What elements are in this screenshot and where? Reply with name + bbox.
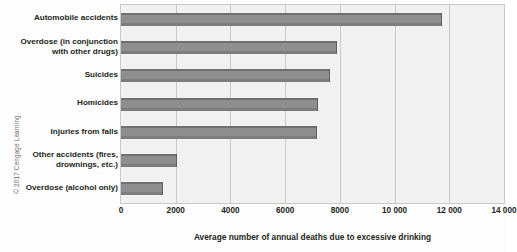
bar bbox=[121, 182, 163, 195]
category-label: Overdose (alcohol only) bbox=[10, 183, 118, 193]
category-axis-labels: Automobile accidentsOverdose (in conjunc… bbox=[10, 4, 118, 204]
x-axis-title: Average number of annual deaths due to e… bbox=[120, 232, 505, 242]
bar bbox=[121, 154, 177, 167]
gridline bbox=[504, 5, 505, 203]
x-tick-label: 10 000 bbox=[382, 206, 407, 215]
plot-inner bbox=[121, 5, 504, 203]
x-tick-label: 0 bbox=[119, 206, 124, 215]
bar bbox=[121, 69, 330, 82]
x-axis-tick-labels: 0200040006000800010 00012 00014 000 bbox=[120, 206, 505, 220]
gridline bbox=[449, 5, 450, 203]
x-tick-label: 12 000 bbox=[437, 206, 462, 215]
x-tick-label: 6000 bbox=[276, 206, 294, 215]
category-label: Overdose (in conjunction with other drug… bbox=[10, 37, 118, 58]
bar bbox=[121, 13, 442, 26]
category-label: Automobile accidents bbox=[10, 13, 118, 23]
category-label: Homicides bbox=[10, 98, 118, 108]
x-tick-label: 4000 bbox=[221, 206, 239, 215]
bar bbox=[121, 41, 337, 54]
gridline bbox=[395, 5, 396, 203]
x-tick-label: 8000 bbox=[331, 206, 349, 215]
bar bbox=[121, 126, 317, 139]
bar bbox=[121, 98, 318, 111]
plot-area bbox=[120, 4, 505, 204]
category-label: Other accidents (fires, drownings, etc.) bbox=[10, 150, 118, 171]
x-tick-label: 2000 bbox=[167, 206, 185, 215]
gridline bbox=[340, 5, 341, 203]
category-label: Suicides bbox=[10, 70, 118, 80]
x-tick-label: 14 000 bbox=[491, 206, 516, 215]
category-label: Injuries from falls bbox=[10, 127, 118, 137]
